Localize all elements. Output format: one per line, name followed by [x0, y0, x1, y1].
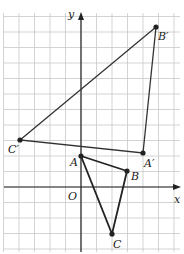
- y-axis-label: y: [67, 8, 75, 21]
- x-axis-label: x: [174, 193, 181, 206]
- label-a: A: [69, 156, 78, 169]
- origin-label: O: [68, 190, 77, 203]
- label-c-prime: C′: [8, 143, 19, 156]
- x-axis-arrow-icon: [173, 184, 181, 190]
- triangle-abc: [81, 156, 127, 234]
- coordinate-diagram: y x O A B C A′ B′ C′: [0, 0, 184, 254]
- vertices: [17, 24, 158, 236]
- triangle-a-prime-b-prime-c-prime: [20, 27, 156, 153]
- label-b-prime: B′: [157, 30, 169, 43]
- label-a-prime: A′: [143, 157, 155, 170]
- label-b: B: [130, 170, 139, 183]
- label-c: C: [113, 238, 122, 251]
- y-axis-arrow-icon: [78, 12, 84, 20]
